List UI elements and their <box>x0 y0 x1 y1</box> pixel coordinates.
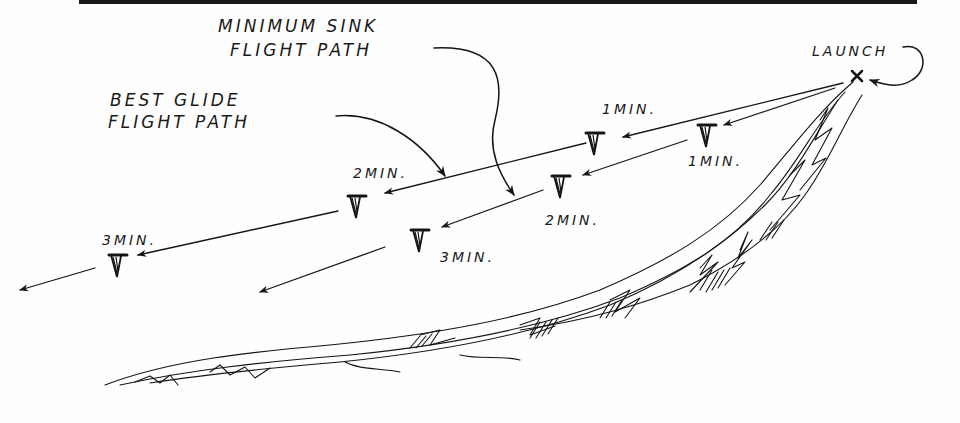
glider-icon <box>586 133 604 155</box>
glider-icon <box>698 125 716 147</box>
svg-text:FLIGHT PATH: FLIGHT PATH <box>108 112 250 132</box>
top-rule <box>79 0 917 4</box>
minimum-sink-leader <box>434 48 514 195</box>
svg-text:MINIMUM SINK: MINIMUM SINK <box>218 16 378 36</box>
svg-text:LAUNCH: LAUNCH <box>812 43 888 59</box>
flight-path-diagram: MINIMUM SINK FLIGHT PATH BEST GLIDE FLIG… <box>0 0 960 423</box>
best-glide-label: BEST GLIDE FLIGHT PATH <box>108 90 250 132</box>
glider-icon <box>109 255 127 277</box>
glider-icon <box>348 196 366 218</box>
glider-icon <box>411 230 429 252</box>
minimum-sink-path <box>260 88 835 292</box>
minimum-sink-label: MINIMUM SINK FLIGHT PATH <box>218 16 378 60</box>
glider-icon <box>552 176 570 198</box>
time-label: 3MIN. <box>440 249 495 265</box>
time-label: 3MIN. <box>102 232 157 248</box>
launch-label: LAUNCH <box>812 43 888 59</box>
svg-text:BEST GLIDE: BEST GLIDE <box>110 90 240 110</box>
time-label: 1MIN. <box>688 153 743 169</box>
launch-marker-icon <box>852 71 862 81</box>
svg-text:FLIGHT PATH: FLIGHT PATH <box>230 40 372 60</box>
time-label: 2MIN. <box>353 165 408 181</box>
time-label: 1MIN. <box>602 101 657 117</box>
time-label: 2MIN. <box>545 212 600 228</box>
